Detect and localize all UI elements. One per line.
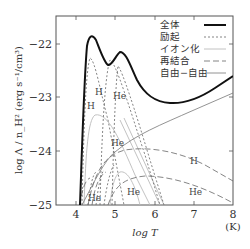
y-axis-title: log Λ / n_H² (erg s⁻¹/cm³)	[13, 46, 25, 174]
free-free-curve	[82, 93, 233, 205]
y-tick-label: −23	[29, 91, 52, 104]
legend: 全体 励起 イオン化 再結合 自由−自由	[160, 19, 226, 78]
annotation-label: He	[88, 193, 101, 203]
x-axis-title: log T	[132, 227, 159, 238]
x-tick-label: 4	[73, 208, 80, 221]
x-tick-label: 8	[230, 208, 237, 221]
legend-label: 励起	[160, 31, 180, 42]
excitation-He-curve	[100, 60, 160, 205]
annotation-label: He	[189, 187, 202, 197]
annotation-label: H	[190, 156, 198, 166]
y-tick-label: −24	[29, 145, 52, 158]
legend-label: 自由−自由	[160, 67, 208, 78]
x-tick-label: 5	[112, 208, 119, 221]
annotation-label: He	[113, 91, 126, 101]
annotation-label: H	[87, 101, 95, 111]
annotation-label: He	[127, 187, 140, 197]
cooling-function-chart: −22 −23 −24 −25 4 5 6 7 8 (K) log T log …	[0, 0, 250, 249]
annotation-label: H	[95, 87, 103, 97]
legend-label: 再結合	[160, 55, 190, 66]
x-tick-label: 7	[191, 208, 198, 221]
x-unit-label: (K)	[225, 221, 240, 232]
y-tick-label: −22	[29, 38, 52, 51]
x-tick-label: 6	[152, 208, 159, 221]
y-tick-label: −25	[29, 199, 52, 212]
legend-label: イオン化	[160, 43, 200, 54]
annotation-label: He	[111, 138, 124, 148]
legend-label: 全体	[160, 19, 180, 30]
